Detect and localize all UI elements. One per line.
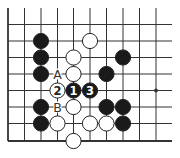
black-stone-circle (115, 50, 130, 65)
black-stone (33, 50, 48, 65)
white-stone (66, 50, 81, 65)
white-stone (82, 116, 97, 131)
white-stone-circle (82, 33, 97, 48)
white-stone (66, 99, 81, 114)
white-stone-circle (99, 116, 114, 131)
black-stone-circle (33, 33, 48, 48)
black-stone (99, 99, 114, 114)
black-stone (115, 116, 130, 131)
white-stone-circle (82, 116, 97, 131)
black-stone: 1 (66, 83, 81, 98)
white-stone (82, 33, 97, 48)
point-marker-b: B (53, 100, 62, 115)
white-stone (66, 133, 81, 148)
go-board-diagram: 213 AB (0, 0, 180, 158)
move-number-label: 2 (53, 84, 61, 98)
marker-letter: A (53, 67, 62, 82)
point-marker-a: A (53, 67, 62, 82)
black-stone-circle (99, 99, 114, 114)
white-stone-circle (66, 50, 81, 65)
black-stone (115, 99, 130, 114)
move-number-label: 1 (69, 84, 77, 98)
black-stone-circle (33, 50, 48, 65)
black-stone-circle (33, 116, 48, 131)
black-stone-circle (115, 99, 130, 114)
black-stone-circle (33, 99, 48, 114)
black-stone (33, 66, 48, 81)
black-stone-circle (99, 66, 114, 81)
white-stone-circle (66, 133, 81, 148)
black-stone (33, 33, 48, 48)
black-stone (99, 66, 114, 81)
white-stone (66, 66, 81, 81)
black-stone: 3 (82, 83, 97, 98)
black-stone (33, 116, 48, 131)
black-stone (33, 99, 48, 114)
white-stone: 2 (50, 83, 65, 98)
star-points (154, 89, 158, 93)
black-stone-circle (33, 66, 48, 81)
white-stone-circle (66, 99, 81, 114)
white-stone (50, 116, 65, 131)
black-stone-circle (115, 116, 130, 131)
white-stone (99, 116, 114, 131)
star-point (154, 89, 158, 93)
marker-letter: B (53, 100, 62, 115)
black-stone (115, 50, 130, 65)
move-number-label: 3 (86, 84, 94, 98)
white-stone-circle (66, 66, 81, 81)
white-stone-circle (50, 116, 65, 131)
